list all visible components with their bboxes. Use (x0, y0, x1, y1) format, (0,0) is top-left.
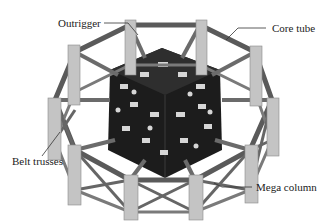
label-mega-column: Mega column (256, 181, 317, 193)
label-outrigger: Outrigger (58, 17, 101, 29)
structure-diagram: Outrigger Core tube Belt trusses Mega co… (0, 0, 328, 223)
label-core-tube: Core tube (272, 22, 315, 34)
label-belt-trusses: Belt trusses (12, 155, 63, 167)
